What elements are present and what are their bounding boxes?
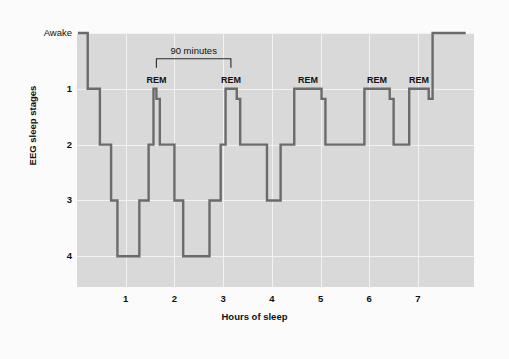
bracket-label: 90 minutes <box>149 45 239 56</box>
y-axis-tick-1: 1 <box>0 84 80 94</box>
y-axis-tick-3: 3 <box>0 195 80 205</box>
gridline-horizontal-3 <box>77 200 474 201</box>
gridline-vertical-3 <box>223 33 224 287</box>
y-axis-tick-2: 2 <box>0 140 80 150</box>
x-axis-tick-2: 2 <box>159 293 189 304</box>
x-axis-tick-3: 3 <box>208 293 238 304</box>
plot-area <box>77 33 474 287</box>
gridline-vertical-7 <box>418 33 419 287</box>
rem-4-label: REM <box>360 75 394 85</box>
y-axis-title: EEG sleep stages <box>27 66 38 186</box>
rem-5-label: REM <box>402 75 436 85</box>
x-axis-tick-7: 7 <box>403 293 433 304</box>
gridline-horizontal-4 <box>77 256 474 257</box>
x-axis-tick-4: 4 <box>257 293 287 304</box>
rem-3-label: REM <box>291 75 325 85</box>
gridline-vertical-1 <box>126 33 127 287</box>
y-axis-tick-awake: Awake <box>0 28 80 38</box>
x-axis-tick-5: 5 <box>306 293 336 304</box>
gridline-vertical-6 <box>369 33 370 287</box>
gridline-horizontal-1 <box>77 89 474 90</box>
gridline-vertical-4 <box>272 33 273 287</box>
x-axis-tick-6: 6 <box>354 293 384 304</box>
x-axis-title: Hours of sleep <box>0 311 509 322</box>
y-axis-tick-4: 4 <box>0 251 80 261</box>
gridline-horizontal-2 <box>77 145 474 146</box>
gridline-vertical-2 <box>174 33 175 287</box>
sleep-stage-figure: Awake1234 1234567 Hours of sleep EEG sle… <box>0 0 509 359</box>
x-axis-tick-1: 1 <box>111 293 141 304</box>
rem-2-label: REM <box>214 75 248 85</box>
gridline-vertical-5 <box>321 33 322 287</box>
rem-1-label: REM <box>139 75 173 85</box>
gridline-horizontal-Awake <box>77 33 474 34</box>
